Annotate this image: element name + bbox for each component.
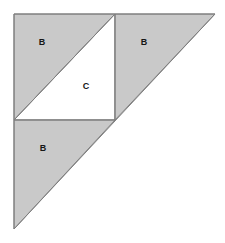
geometry-figure-container: B C B B <box>0 0 225 243</box>
geometry-diagram: B C B B <box>0 0 225 243</box>
